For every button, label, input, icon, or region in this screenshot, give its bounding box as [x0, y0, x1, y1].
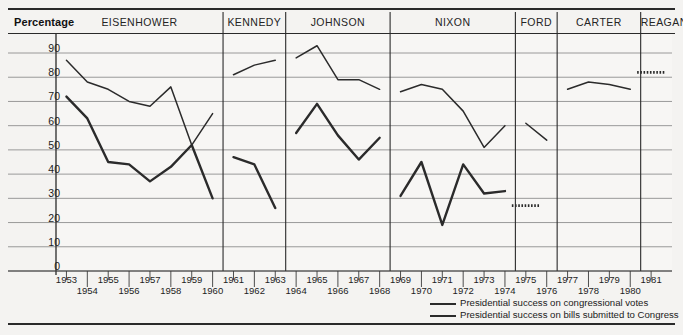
- plot-background: [56, 34, 672, 271]
- y-axis-labels: 0102030405060708090: [0, 0, 60, 300]
- series-0-segment-0: [66, 60, 212, 145]
- series-1-segment-0: [66, 97, 212, 199]
- series-1-segment-1: [233, 157, 275, 208]
- y-tick-label: 20: [14, 212, 60, 224]
- x-tick-label-1981: 1981: [636, 274, 666, 286]
- y-tick-label: 50: [14, 139, 60, 151]
- y-tick-label: 10: [14, 236, 60, 248]
- legend-label: Presidential success on congressional vo…: [460, 297, 648, 309]
- series-0-segment-1: [233, 60, 275, 75]
- x-tick-label-1966: 1966: [323, 285, 353, 297]
- x-tick-label-1960: 1960: [198, 285, 228, 297]
- top-border-rule: [8, 8, 675, 10]
- x-tick-label-1954: 1954: [72, 285, 102, 297]
- series-1-segment-2: [296, 104, 380, 160]
- president-band-rule: [8, 33, 675, 34]
- president-label-reagan: REAGAN: [641, 12, 672, 32]
- president-label-nixon: NIXON: [390, 12, 515, 32]
- x-tick-label-1978: 1978: [573, 285, 603, 297]
- x-tick-label-1974: 1974: [490, 285, 520, 297]
- x-tick-label-1972: 1972: [448, 285, 478, 297]
- x-tick-label-1980: 1980: [615, 285, 645, 297]
- x-tick-label-1956: 1956: [114, 285, 144, 297]
- series-0-segment-4: [526, 123, 547, 140]
- y-tick-label: 70: [14, 90, 60, 102]
- president-label-eisenhower: EISENHOWER: [56, 12, 223, 32]
- x-tick-label-1970: 1970: [406, 285, 436, 297]
- bottom-border-rule: [8, 323, 675, 325]
- president-label-ford: FORD: [515, 12, 557, 32]
- y-tick-label: 80: [14, 66, 60, 78]
- legend-line-swatch: [430, 315, 456, 318]
- legend-item-0: Presidential success on congressional vo…: [430, 298, 680, 309]
- y-tick-label: 40: [14, 163, 60, 175]
- x-tick-label-1962: 1962: [239, 285, 269, 297]
- x-tick-label-1968: 1968: [365, 285, 395, 297]
- series-0-segment-5: [568, 82, 631, 89]
- x-tick-label-1976: 1976: [532, 285, 562, 297]
- legend-label: Presidential success on bills submitted …: [460, 309, 679, 321]
- president-label-carter: CARTER: [557, 12, 641, 32]
- y-tick-label: 60: [14, 115, 60, 127]
- x-tick-label-1958: 1958: [156, 285, 186, 297]
- president-band: EISENHOWERKENNEDYJOHNSONNIXONFORDCARTERR…: [8, 12, 675, 32]
- chart-legend: Presidential success on congressional vo…: [430, 298, 680, 322]
- series-1-segment-3: [401, 162, 505, 225]
- series-0-segment-3: [401, 84, 505, 147]
- series-0-segment-2: [296, 46, 380, 90]
- president-label-johnson: JOHNSON: [286, 12, 390, 32]
- legend-line-swatch: [430, 303, 456, 305]
- y-tick-label: 30: [14, 187, 60, 199]
- y-tick-label: 90: [14, 42, 60, 54]
- chart-root: Percentage EISENHOWERKENNEDYJOHNSONNIXON…: [0, 0, 683, 335]
- y-tick-label: 0: [14, 260, 60, 272]
- x-tick-label-1964: 1964: [281, 285, 311, 297]
- president-label-kennedy: KENNEDY: [223, 12, 286, 32]
- legend-item-1: Presidential success on bills submitted …: [430, 310, 680, 321]
